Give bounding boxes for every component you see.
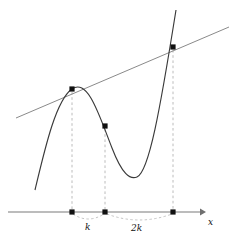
interval-arc-k xyxy=(73,214,104,219)
secant-line xyxy=(16,27,229,118)
figure-container: x k 2k xyxy=(0,0,236,240)
cubic-curve-diagram: x k 2k xyxy=(0,0,236,240)
tangency-point xyxy=(69,86,74,91)
droplines-group xyxy=(72,50,173,210)
interval-label-2k: 2k xyxy=(130,223,142,233)
interval-label-k: k xyxy=(85,222,90,232)
x-axis-arrowhead xyxy=(200,209,206,216)
x-axis-label: x xyxy=(208,217,213,227)
midpoint-on-line xyxy=(102,123,107,128)
axis-dot-right xyxy=(170,209,175,214)
interval-labels-group: k 2k xyxy=(85,222,142,233)
x-axis-group: x xyxy=(8,209,213,227)
interval-arc-2k xyxy=(107,214,172,220)
axis-dot-middle xyxy=(102,209,107,214)
cubic-curve xyxy=(35,10,176,190)
axis-dot-left xyxy=(69,209,74,214)
intersection-point xyxy=(170,44,175,49)
interval-arcs-group xyxy=(73,214,172,220)
